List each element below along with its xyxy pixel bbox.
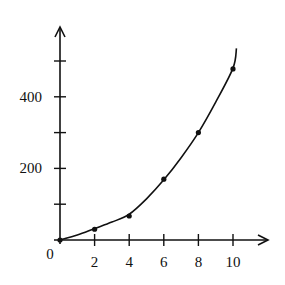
- x-tick-label: 2: [91, 254, 99, 270]
- data-point: [92, 227, 97, 232]
- fitted-curve: [60, 48, 236, 240]
- chart: 2468102004000: [0, 0, 285, 285]
- data-point: [161, 177, 166, 182]
- x-tick-label: 10: [226, 254, 241, 270]
- data-point: [127, 213, 132, 218]
- ticks: [54, 61, 233, 246]
- x-tick-label: 8: [195, 254, 203, 270]
- y-tick-label: 400: [20, 89, 43, 105]
- x-tick-label: 6: [160, 254, 168, 270]
- data-point: [57, 237, 62, 242]
- data-point: [196, 130, 201, 135]
- x-tick-label: 4: [125, 254, 133, 270]
- origin-label: 0: [46, 246, 54, 262]
- data-points: [57, 66, 235, 242]
- y-tick-label: 200: [20, 160, 43, 176]
- data-point: [230, 66, 235, 71]
